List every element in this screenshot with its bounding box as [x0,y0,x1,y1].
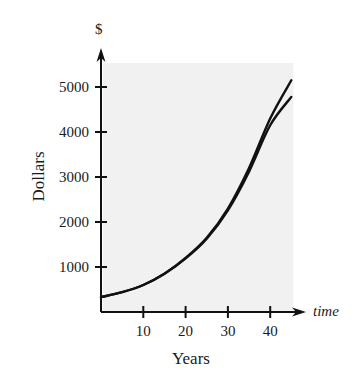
y-tick-label: 1000 [39,260,89,275]
shaded-region [103,63,293,312]
x-axis-arrow-label: time [313,304,339,319]
x-tick-label: 40 [255,324,285,339]
y-axis-arrow-label: $ [95,22,103,37]
y-tick-label: 3000 [39,170,89,185]
y-tick-label: 5000 [39,80,89,95]
y-tick-label: 4000 [39,125,89,140]
x-tick-label: 30 [213,324,243,339]
y-tick-label: 2000 [39,215,89,230]
x-axis-title: Years [172,350,210,367]
x-tick-label: 10 [128,324,158,339]
x-tick-label: 20 [171,324,201,339]
